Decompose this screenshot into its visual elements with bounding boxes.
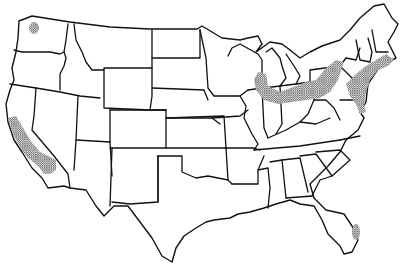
region-puget-sound [29,22,39,34]
us-map [0,0,414,265]
region-southeast-florida [352,224,360,240]
us-outline [6,4,398,262]
